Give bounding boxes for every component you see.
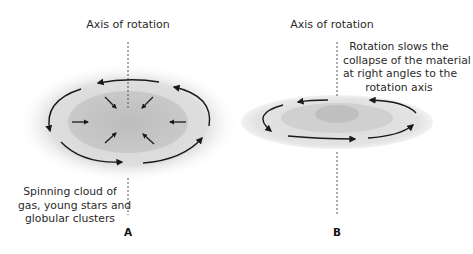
panel-b-letter: B (333, 226, 341, 238)
caption-line: Spinning cloud of (18, 185, 122, 199)
panel-b-axis-label: Axis of rotation (282, 18, 382, 32)
caption-line: at right angles to the (343, 67, 455, 81)
caption-line: gas, young stars and (18, 199, 122, 213)
disk-bulge (315, 105, 359, 123)
panel-b-caption: Rotation slows the collapse of the mater… (343, 40, 455, 94)
caption-line: collapse of the material (343, 54, 455, 68)
caption-line: rotation axis (343, 81, 455, 95)
panel-a-axis-label: Axis of rotation (78, 18, 178, 32)
caption-line: globular clusters (18, 212, 122, 226)
caption-line: Rotation slows the (343, 40, 455, 54)
panel-a-caption: Spinning cloud of gas, young stars and g… (18, 185, 122, 226)
panel-a-letter: A (124, 226, 132, 238)
